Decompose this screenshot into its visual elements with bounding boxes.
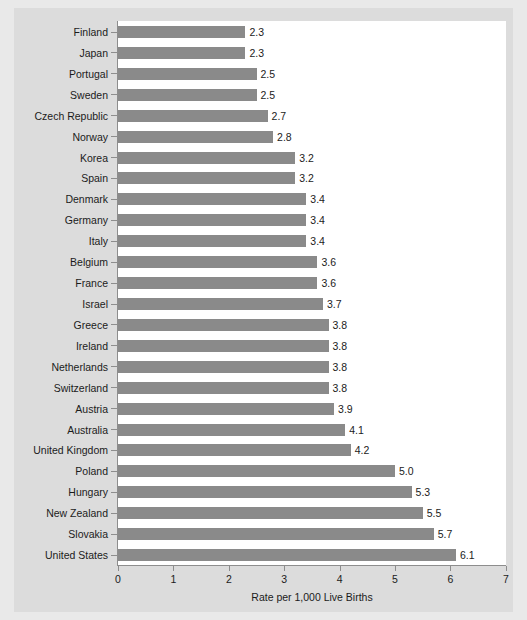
- category-label: Australia: [14, 419, 108, 441]
- x-axis-tick-label: 7: [494, 573, 518, 585]
- bar-value-label: 3.4: [310, 191, 325, 207]
- bar: [118, 528, 434, 540]
- bar: [118, 131, 273, 143]
- category-label: Greece: [14, 314, 108, 336]
- bar-row: Poland5.0: [14, 460, 513, 482]
- category-label: Switzerland: [14, 377, 108, 399]
- y-axis-tick: [111, 513, 118, 514]
- bar-value-label: 4.2: [355, 442, 370, 458]
- category-label: United States: [14, 544, 108, 566]
- y-axis-tick: [111, 52, 118, 53]
- x-axis-tick-mark: [284, 566, 285, 571]
- bar-value-label: 5.7: [438, 526, 453, 542]
- y-axis-tick: [111, 324, 118, 325]
- bar: [118, 403, 334, 415]
- bar-row: Portugal2.5: [14, 63, 513, 85]
- x-axis-tick-label: 6: [438, 573, 462, 585]
- bar-value-label: 2.3: [249, 24, 264, 40]
- bar-row: Czech Republic2.7: [14, 105, 513, 127]
- category-label: Sweden: [14, 84, 108, 106]
- bar: [118, 507, 423, 519]
- bar: [118, 26, 245, 38]
- category-label: Hungary: [14, 481, 108, 503]
- y-axis-tick: [111, 304, 118, 305]
- bar-value-label: 2.3: [249, 45, 264, 61]
- x-axis-tick-label: 5: [383, 573, 407, 585]
- x-axis-tick-mark: [173, 566, 174, 571]
- bar-value-label: 5.5: [427, 505, 442, 521]
- bar-value-label: 2.8: [277, 129, 292, 145]
- y-axis-tick: [111, 534, 118, 535]
- y-axis-tick: [111, 73, 118, 74]
- bar-row: Belgium3.6: [14, 251, 513, 273]
- bar-value-label: 5.0: [399, 463, 414, 479]
- bar-value-label: 5.3: [416, 484, 431, 500]
- bar-value-label: 3.2: [299, 170, 314, 186]
- bar: [118, 382, 329, 394]
- category-label: Portugal: [14, 63, 108, 85]
- bar: [118, 193, 306, 205]
- bar-row: Germany3.4: [14, 209, 513, 231]
- bar-value-label: 3.8: [333, 380, 348, 396]
- bar-row: Greece3.8: [14, 314, 513, 336]
- y-axis-tick: [111, 450, 118, 451]
- y-axis-tick: [111, 366, 118, 367]
- category-label: Spain: [14, 167, 108, 189]
- bar-value-label: 3.6: [321, 254, 336, 270]
- bar-row: United Kingdom4.2: [14, 439, 513, 461]
- bar-row: Finland2.3: [14, 21, 513, 43]
- x-axis-tick-mark: [229, 566, 230, 571]
- bar-value-label: 6.1: [460, 547, 475, 563]
- category-label: Italy: [14, 230, 108, 252]
- bar-row: Ireland3.8: [14, 335, 513, 357]
- x-axis-tick-mark: [506, 566, 507, 571]
- y-axis-tick: [111, 471, 118, 472]
- bar: [118, 256, 317, 268]
- category-label: Israel: [14, 293, 108, 315]
- bar-value-label: 4.1: [349, 422, 364, 438]
- bar-row: Israel3.7: [14, 293, 513, 315]
- bar: [118, 172, 295, 184]
- bar: [118, 89, 257, 101]
- category-label: Ireland: [14, 335, 108, 357]
- y-axis-tick: [111, 94, 118, 95]
- x-axis-tick-mark: [118, 566, 119, 571]
- bar: [118, 465, 395, 477]
- bar: [118, 486, 412, 498]
- bar-row: United States6.1: [14, 544, 513, 566]
- bar: [118, 277, 317, 289]
- bar-value-label: 3.4: [310, 233, 325, 249]
- bar-value-label: 2.7: [272, 108, 287, 124]
- y-axis-tick: [111, 345, 118, 346]
- category-label: Japan: [14, 42, 108, 64]
- chart-figure: Finland2.3Japan2.3Portugal2.5Sweden2.5Cz…: [14, 8, 513, 612]
- y-axis-tick: [111, 555, 118, 556]
- category-label: France: [14, 272, 108, 294]
- category-label: Norway: [14, 126, 108, 148]
- bar-row: Slovakia5.7: [14, 523, 513, 545]
- bar: [118, 298, 323, 310]
- y-axis-tick: [111, 262, 118, 263]
- y-axis-tick: [111, 178, 118, 179]
- y-axis-tick: [111, 387, 118, 388]
- bar-row: Australia4.1: [14, 419, 513, 441]
- bar-row: France3.6: [14, 272, 513, 294]
- bar-value-label: 3.6: [321, 275, 336, 291]
- x-axis-tick-label: 4: [328, 573, 352, 585]
- y-axis-tick: [111, 408, 118, 409]
- bar-row: Netherlands3.8: [14, 356, 513, 378]
- category-label: Austria: [14, 398, 108, 420]
- bar: [118, 235, 306, 247]
- category-label: Finland: [14, 21, 108, 43]
- bar-value-label: 3.2: [299, 150, 314, 166]
- x-axis-tick-mark: [395, 566, 396, 571]
- y-axis-tick: [111, 32, 118, 33]
- bar-row: Spain3.2: [14, 167, 513, 189]
- bar-row: Italy3.4: [14, 230, 513, 252]
- y-axis-tick: [111, 157, 118, 158]
- bar-value-label: 2.5: [261, 66, 276, 82]
- y-axis-tick: [111, 115, 118, 116]
- x-axis-tick-label: 1: [161, 573, 185, 585]
- x-axis-tick-mark: [340, 566, 341, 571]
- bar: [118, 68, 257, 80]
